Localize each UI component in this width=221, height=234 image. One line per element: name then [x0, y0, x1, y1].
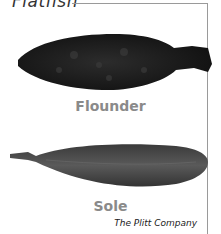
- sole-label: Sole: [0, 198, 221, 214]
- credit-text: The Plitt Company: [114, 218, 197, 228]
- flounder-image: [14, 30, 214, 95]
- flounder-label: Flounder: [0, 98, 221, 114]
- sole-image: [6, 140, 211, 195]
- frame-top-border: [72, 3, 207, 4]
- title: Flatfish: [12, 0, 78, 11]
